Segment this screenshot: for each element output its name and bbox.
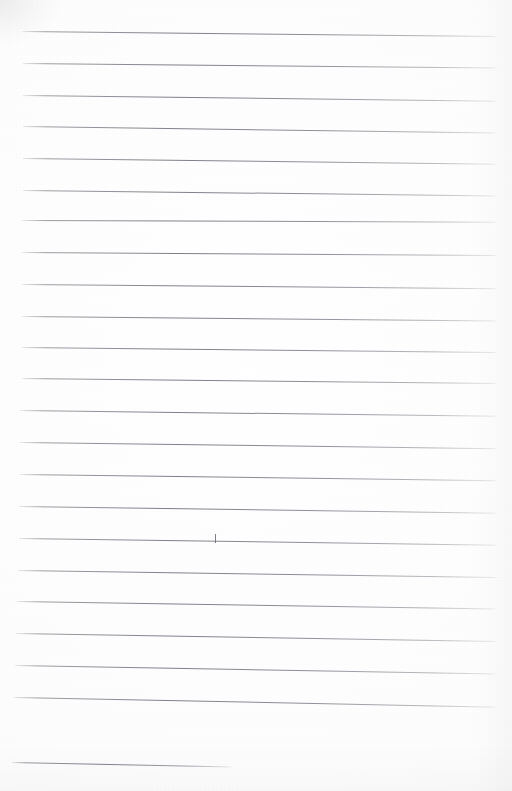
ruled-line [15, 665, 496, 674]
scanned-lined-paper-image: An empty lined sheet of notebook paper, … [0, 0, 512, 791]
ruled-line [23, 126, 497, 134]
ruled-line [22, 347, 497, 353]
ruled-line [23, 63, 497, 69]
ruled-line [23, 158, 497, 165]
ruled-line [22, 284, 497, 289]
ruled-line [14, 697, 496, 708]
ruled-line [19, 538, 497, 546]
ruled-line [22, 378, 497, 384]
ruled-line [23, 95, 497, 102]
ruled-line [23, 31, 497, 37]
ruled-line [23, 190, 497, 196]
ruled-line [12, 762, 232, 767]
ruled-line [22, 252, 497, 256]
ruled-line [17, 601, 496, 610]
ruled-line [22, 316, 497, 322]
ruled-line [22, 220, 497, 223]
ruled-line [20, 410, 497, 417]
ruled-line [20, 442, 497, 449]
ink-tick-mark [215, 534, 216, 543]
ruled-line [20, 474, 497, 481]
ruled-lines-group [0, 0, 512, 791]
ruled-line [16, 633, 496, 642]
ruled-line [19, 506, 497, 514]
ruled-line [18, 570, 497, 578]
